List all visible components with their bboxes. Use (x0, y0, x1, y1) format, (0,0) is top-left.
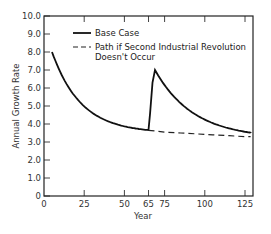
y-tick-label: 10.0 (22, 11, 41, 21)
x-tick-label: 50 (119, 199, 130, 209)
y-tick-label: 2.0 (27, 155, 41, 165)
chart: 01.02.03.04.05.06.07.08.09.010.002550657… (0, 0, 271, 234)
legend-label-base: Base Case (95, 28, 139, 38)
y-tick-label: 8.0 (27, 47, 41, 57)
y-tick-label: 7.0 (27, 65, 41, 75)
y-tick-label: 1.0 (27, 173, 41, 183)
y-axis-label: Annual Growth Rate (11, 63, 21, 148)
x-tick-label: 75 (159, 199, 170, 209)
y-tick-label: 4.0 (27, 119, 41, 129)
x-axis-label: Year (133, 211, 153, 221)
y-tick-label: 9.0 (27, 29, 41, 39)
y-tick-label: 0 (36, 191, 41, 201)
x-tick-label: 100 (197, 199, 213, 209)
legend: Base Case Path if Second Industrial Revo… (73, 28, 246, 62)
legend-label-alt-2: Doesn't Occur (95, 52, 156, 62)
y-tick-label: 3.0 (27, 137, 41, 147)
legend-label-alt: Path if Second Industrial Revolution (95, 42, 246, 52)
x-tick-label: 25 (79, 199, 90, 209)
y-tick-label: 5.0 (27, 101, 41, 111)
x-tick-label: 65 (143, 199, 154, 209)
y-tick-label: 6.0 (27, 83, 41, 93)
x-tick-label: 0 (41, 199, 46, 209)
base-case-line (52, 52, 251, 133)
alt-path-line (149, 130, 251, 136)
x-tick-label: 125 (237, 199, 253, 209)
